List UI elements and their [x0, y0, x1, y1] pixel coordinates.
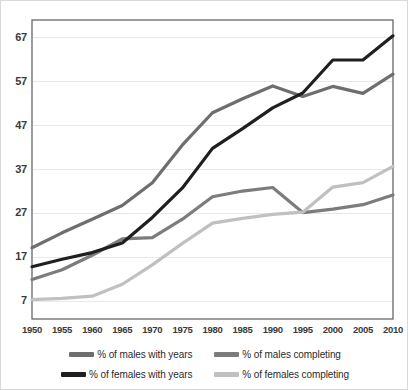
x-tick-label-1985: 1985	[226, 324, 260, 335]
legend-label-males-with-years: % of males with years	[97, 349, 192, 360]
x-tick-label-1950: 1950	[15, 324, 49, 335]
y-tick-label-27: 27	[3, 206, 27, 218]
x-tick-label-1995: 1995	[286, 324, 320, 335]
legend-label-females-with-years: % of females with years	[89, 369, 192, 380]
y-tick-label-57: 57	[3, 75, 27, 87]
legend-swatch-males-with-years	[69, 352, 94, 357]
chart-frame: 7172737475767 19501955196019651970197519…	[0, 0, 408, 390]
legend-label-females-completing: % of females completing	[242, 369, 349, 380]
y-tick-label-47: 47	[3, 119, 27, 131]
plot-area	[1, 1, 408, 341]
legend-row-1: % of males with years % of males complet…	[1, 345, 408, 363]
legend-label-males-completing: % of males completing	[242, 349, 341, 360]
x-tick-label-1975: 1975	[165, 324, 199, 335]
legend-item-males-with-years[interactable]: % of males with years	[69, 349, 192, 360]
series-line-3	[32, 166, 393, 299]
chart-legend: % of males with years % of males complet…	[1, 341, 408, 390]
y-tick-label-7: 7	[3, 294, 27, 306]
legend-swatch-females-with-years	[61, 372, 86, 377]
series-line-2	[32, 36, 393, 267]
legend-item-females-completing[interactable]: % of females completing	[214, 369, 349, 380]
legend-swatch-males-completing	[214, 352, 239, 357]
x-tick-label-2005: 2005	[346, 324, 380, 335]
x-tick-label-1970: 1970	[135, 324, 169, 335]
x-tick-label-1980: 1980	[196, 324, 230, 335]
line-chart: 7172737475767 19501955196019651970197519…	[1, 1, 408, 341]
legend-item-males-completing[interactable]: % of males completing	[214, 349, 341, 360]
x-tick-label-1960: 1960	[75, 324, 109, 335]
x-tick-label-2010: 2010	[376, 324, 408, 335]
x-tick-label-1965: 1965	[105, 324, 139, 335]
legend-item-females-with-years[interactable]: % of females with years	[61, 369, 192, 380]
y-tick-label-17: 17	[3, 250, 27, 262]
x-tick-label-1990: 1990	[256, 324, 290, 335]
x-tick-label-1955: 1955	[45, 324, 79, 335]
legend-swatch-females-completing	[214, 372, 239, 377]
series-line-1	[32, 188, 393, 280]
y-tick-label-37: 37	[3, 163, 27, 175]
y-tick-label-67: 67	[3, 31, 27, 43]
x-tick-label-2000: 2000	[316, 324, 350, 335]
legend-row-2: % of females with years % of females com…	[1, 365, 408, 383]
